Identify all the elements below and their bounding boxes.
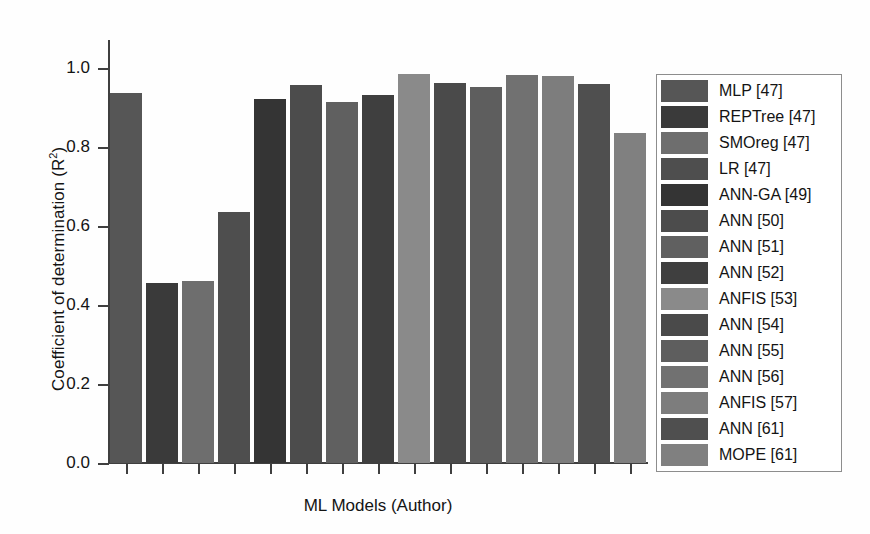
x-axis-tick: [522, 464, 524, 474]
legend-swatch: [661, 340, 708, 362]
y-axis-tick-label: 0.2: [38, 374, 90, 394]
bar: [506, 75, 538, 463]
legend-item: MOPE [61]: [657, 442, 841, 468]
legend-item: ANFIS [53]: [657, 286, 841, 312]
legend-item: ANN [54]: [657, 312, 841, 338]
bar: [218, 212, 250, 463]
legend-item-label: ANN [61]: [719, 421, 784, 437]
bar: [254, 99, 286, 463]
legend-item-label: ANFIS [53]: [719, 291, 797, 307]
legend-swatch: [661, 158, 708, 180]
y-axis-tick: [98, 463, 109, 465]
legend-item-label: REPTree [47]: [719, 109, 815, 125]
legend-item-label: ANFIS [57]: [719, 395, 797, 411]
bar: [362, 95, 394, 463]
x-axis-tick: [630, 464, 632, 474]
x-axis-tick: [486, 464, 488, 474]
legend-swatch: [661, 80, 708, 102]
bar: [470, 87, 502, 463]
legend-swatch: [661, 392, 708, 414]
legend-item: ANN [50]: [657, 208, 841, 234]
x-axis-tick: [306, 464, 308, 474]
bar: [578, 84, 610, 463]
legend-item: ANN [52]: [657, 260, 841, 286]
legend-item-label: ANN-GA [49]: [719, 187, 811, 203]
legend-item: ANN [55]: [657, 338, 841, 364]
x-axis-tick: [378, 464, 380, 474]
y-axis-tick-label: 0.6: [38, 216, 90, 236]
bar: [434, 83, 466, 463]
x-axis-tick: [594, 464, 596, 474]
legend-swatch: [661, 210, 708, 232]
x-axis-tick: [162, 464, 164, 474]
legend-item-label: ANN [51]: [719, 239, 784, 255]
legend-swatch: [661, 444, 708, 466]
x-axis-tick: [234, 464, 236, 474]
legend-swatch: [661, 262, 708, 284]
y-axis-tick-label: 0.4: [38, 295, 90, 315]
x-axis-tick: [198, 464, 200, 474]
legend-item: ANN-GA [49]: [657, 182, 841, 208]
legend-item: ANN [51]: [657, 234, 841, 260]
legend-swatch: [661, 236, 708, 258]
legend-swatch: [661, 106, 708, 128]
legend-item: REPTree [47]: [657, 104, 841, 130]
bar-chart-figure: Coefficient of determination (R2) 0.00.2…: [0, 0, 870, 534]
legend-item: ANN [61]: [657, 416, 841, 442]
legend-item-label: ANN [55]: [719, 343, 784, 359]
legend-item-label: LR [47]: [719, 161, 771, 177]
x-axis-title: ML Models (Author): [108, 496, 648, 516]
legend-item: ANN [56]: [657, 364, 841, 390]
legend-swatch: [661, 314, 708, 336]
bar: [182, 281, 214, 463]
bar: [614, 133, 646, 463]
legend-item: LR [47]: [657, 156, 841, 182]
bar: [290, 85, 322, 463]
legend-item-label: ANN [52]: [719, 265, 784, 281]
legend-item: MLP [47]: [657, 78, 841, 104]
legend-item-label: SMOreg [47]: [719, 135, 810, 151]
x-axis-tick: [270, 464, 272, 474]
x-axis-tick: [342, 464, 344, 474]
bar: [110, 93, 142, 463]
legend-item-label: ANN [56]: [719, 369, 784, 385]
bar: [398, 74, 430, 463]
y-axis-tick-label: 1.0: [38, 58, 90, 78]
bar: [326, 102, 358, 463]
y-axis-tick-labels: 0.00.20.40.60.81.0: [38, 0, 90, 534]
legend-item-label: ANN [54]: [719, 317, 784, 333]
legend-swatch: [661, 418, 708, 440]
x-axis-tick: [558, 464, 560, 474]
x-axis-tick: [414, 464, 416, 474]
x-axis-tick: [126, 464, 128, 474]
legend-swatch: [661, 184, 708, 206]
legend-swatch: [661, 288, 708, 310]
legend-item-label: MOPE [61]: [719, 447, 797, 463]
bar: [146, 283, 178, 463]
legend-swatch: [661, 132, 708, 154]
legend: MLP [47]REPTree [47]SMOreg [47]LR [47]AN…: [656, 74, 842, 472]
legend-item: ANFIS [57]: [657, 390, 841, 416]
legend-swatch: [661, 366, 708, 388]
y-axis-tick-label: 0.0: [38, 453, 90, 473]
y-axis-tick-label: 0.8: [38, 137, 90, 157]
x-axis-tick: [450, 464, 452, 474]
legend-item: SMOreg [47]: [657, 130, 841, 156]
plot-area: [108, 40, 648, 463]
legend-item-label: MLP [47]: [719, 83, 783, 99]
legend-item-label: ANN [50]: [719, 213, 784, 229]
bar: [542, 76, 574, 463]
